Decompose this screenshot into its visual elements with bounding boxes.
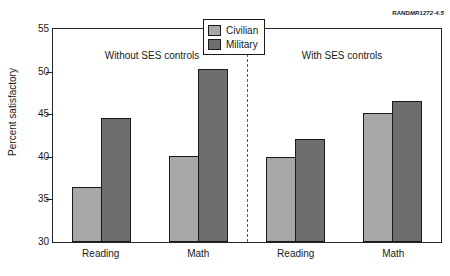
bar-civilian[interactable] bbox=[72, 187, 102, 242]
y-axis-title: Percent satisfactory bbox=[4, 0, 22, 250]
rand-code-text: MR1272-4.5 bbox=[410, 10, 444, 16]
legend-label-military: Military bbox=[226, 39, 258, 50]
panel-caption-with-ses: With SES controls bbox=[268, 50, 415, 61]
x-axis-tick-label: Math bbox=[150, 248, 248, 259]
x-axis-tick-label: Reading bbox=[52, 248, 150, 259]
panel-divider bbox=[247, 29, 248, 242]
bar-military[interactable] bbox=[392, 101, 422, 242]
rand-brand-text: RAND bbox=[392, 10, 410, 16]
chart-legend: Civilian Military bbox=[203, 19, 265, 55]
x-axis-tick-label: Math bbox=[345, 248, 443, 259]
bar-military[interactable] bbox=[295, 139, 325, 242]
legend-swatch-military-icon bbox=[208, 39, 221, 50]
y-axis-tick-mark bbox=[46, 199, 53, 200]
y-axis-tick-label: 55 bbox=[27, 23, 49, 35]
bar-civilian[interactable] bbox=[169, 156, 199, 242]
y-axis-tick-mark bbox=[46, 72, 53, 73]
x-axis-labels: ReadingMathReadingMath bbox=[52, 248, 442, 259]
legend-label-civilian: Civilian bbox=[226, 25, 258, 36]
y-axis-tick-mark bbox=[46, 157, 53, 158]
legend-item-military: Military bbox=[208, 37, 258, 51]
legend-swatch-civilian-icon bbox=[208, 25, 221, 36]
rand-credit-label: RANDMR1272-4.5 bbox=[392, 10, 444, 16]
bar-military[interactable] bbox=[101, 118, 131, 242]
plot-area: 555045403530 Without SES controls With S… bbox=[52, 28, 442, 243]
y-axis-tick-label: 30 bbox=[27, 236, 49, 248]
figure-bar-chart: RANDMR1272-4.5 Percent satisfactory 5550… bbox=[0, 0, 450, 276]
x-axis-tick-label: Reading bbox=[247, 248, 345, 259]
y-axis-tick-mark bbox=[46, 114, 53, 115]
legend-item-civilian: Civilian bbox=[208, 23, 258, 37]
bar-military[interactable] bbox=[198, 69, 228, 242]
bar-civilian[interactable] bbox=[266, 157, 296, 242]
bar-civilian[interactable] bbox=[363, 113, 393, 243]
